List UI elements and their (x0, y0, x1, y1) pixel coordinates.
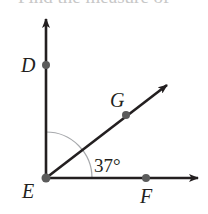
angle-diagram: D E G F 37° (0, 0, 208, 214)
point-E (42, 174, 51, 183)
label-D: D (20, 54, 36, 76)
angle-measure-label: 37° (94, 155, 121, 176)
point-F (142, 174, 150, 182)
label-F: F (139, 185, 153, 207)
label-G: G (110, 89, 125, 111)
point-G (122, 111, 130, 119)
point-D (42, 61, 50, 69)
label-E: E (21, 180, 34, 202)
